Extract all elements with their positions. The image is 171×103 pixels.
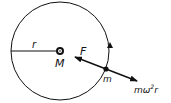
force-label: F (80, 45, 87, 58)
centrifugal-label: mω2r (134, 83, 159, 95)
orbit-diagram: r M F m mω2r (0, 0, 171, 103)
radius-label: r (32, 39, 37, 50)
force-arrow (75, 57, 106, 69)
central-mass-label: M (55, 57, 65, 70)
orbiting-mass-dot (103, 66, 108, 71)
orbiting-mass-label: m (103, 74, 112, 84)
